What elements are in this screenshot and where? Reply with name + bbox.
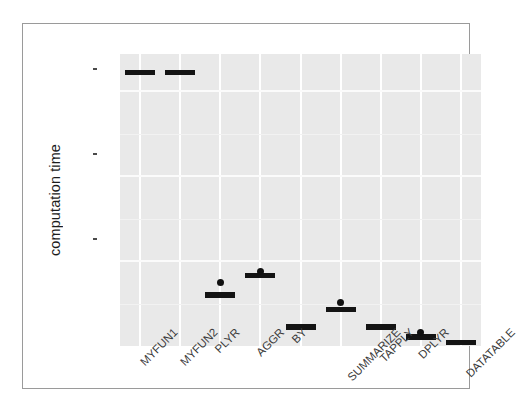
vertical-gridline — [219, 54, 221, 346]
vertical-gridline — [259, 54, 261, 346]
y-axis-tick-mark — [93, 153, 97, 155]
boxplot-outlier-point — [337, 299, 344, 306]
boxplot-median — [326, 307, 356, 313]
y-axis-tick-mark — [93, 68, 97, 70]
vertical-gridline — [460, 54, 462, 346]
y-axis-tick-mark — [93, 238, 97, 240]
y-axis-title: computation time — [47, 144, 63, 256]
horizontal-gridline-minor — [120, 219, 481, 220]
boxplot-median — [165, 70, 195, 76]
horizontal-gridline-major — [120, 175, 481, 177]
horizontal-gridline-major — [120, 90, 481, 92]
boxplot-outlier-point — [217, 279, 224, 286]
horizontal-gridline-minor — [120, 304, 481, 305]
figure-frame: computation time 2.5e+095.0e+097.5e+09 M… — [22, 23, 470, 389]
vertical-gridline — [300, 54, 302, 346]
horizontal-gridline-major — [120, 260, 481, 262]
vertical-gridline — [139, 54, 141, 346]
boxplot-median — [125, 70, 155, 76]
boxplot-median — [446, 340, 476, 346]
vertical-gridline — [179, 54, 181, 346]
vertical-gridline — [380, 54, 382, 346]
boxplot-median — [205, 292, 235, 298]
horizontal-gridline-minor — [120, 134, 481, 135]
vertical-gridline — [420, 54, 422, 346]
plot-panel — [120, 54, 481, 346]
